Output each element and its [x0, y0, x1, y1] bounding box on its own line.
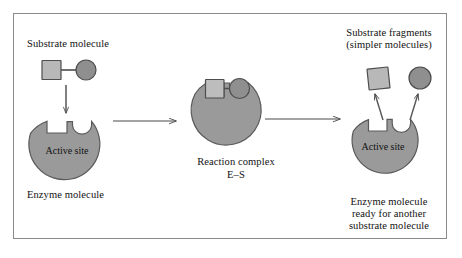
reaction-complex-label: Reaction complex [181, 156, 291, 169]
enzyme-molecule-label: Enzyme molecule [27, 189, 104, 202]
enzyme-action-diagram: Substrate molecule Active site Enzyme mo… [0, 0, 462, 258]
enzyme-ready-label-line1: Enzyme molecule [333, 196, 445, 209]
active-site-label-right: Active site [352, 141, 414, 152]
reaction-complex-formula: E–S [181, 169, 291, 182]
substrate-fragments-sublabel: (simpler molecules) [333, 39, 445, 52]
substrate-fragments-label: Substrate fragments [333, 27, 445, 40]
enzyme-ready-label-line3: substrate molecule [333, 220, 445, 233]
active-site-label-left: Active site [36, 145, 98, 156]
enzyme-ready-label-line2: ready for another [333, 208, 445, 221]
substrate-molecule-label: Substrate molecule [27, 38, 109, 51]
